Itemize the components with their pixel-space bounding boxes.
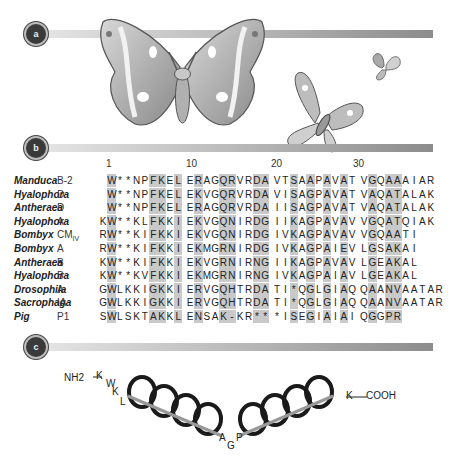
- species-name: Antheraea: [14, 256, 63, 269]
- position-tick: 10: [186, 158, 197, 169]
- panel-b-badge: b: [24, 136, 48, 160]
- isoform-label: A: [57, 283, 64, 296]
- c-residue: K: [346, 390, 353, 401]
- sequence: SWLSKTAKKL ENSAK-KR** *ISEGIAIAI QGGPR: [99, 310, 402, 323]
- isoform-label: B-2: [57, 174, 73, 187]
- n-terminus-label: NH2: [64, 372, 84, 383]
- panel-c-badge: c: [24, 335, 48, 359]
- sequence: W**NPFKEL ERAGQRVRDA IISAGPAVAT VAQATALA…: [99, 201, 435, 214]
- panel-a-badge: a: [24, 22, 48, 46]
- sequence: GWLKKIGKKI ERVGQHTRDA TI*QGLGIAQ QAANVAA…: [99, 296, 443, 309]
- n-residue-1: K: [96, 370, 103, 381]
- isoform-label: D: [57, 188, 64, 201]
- isoform-label: A: [57, 242, 64, 255]
- sequence: KW**KIFKKI EKVGRNIRNG IIKAGPAVAV LGEAKAL: [99, 256, 418, 269]
- small-moth-illustration: [280, 68, 370, 153]
- n-residue-4: L: [120, 396, 126, 407]
- position-tick: 1: [106, 158, 112, 169]
- isoform-label: D: [57, 201, 64, 214]
- isoform-label: IA: [57, 296, 66, 309]
- hinge-residue-p: P: [236, 432, 243, 443]
- species-name: Bombyx: [14, 242, 53, 255]
- species-name: Manduca: [14, 174, 57, 187]
- species-name: Bombyx: [14, 228, 53, 241]
- panel-b-band: [38, 144, 433, 152]
- species-name: Pig: [14, 310, 30, 323]
- isoform-label: B: [57, 256, 64, 269]
- hinge-residue-a: A: [219, 432, 226, 443]
- sequence: GWLKKIGKKI ERVGQHTRDA TI*QGLGIAQ QAANVAA…: [99, 283, 443, 296]
- isoform-label: B: [57, 269, 64, 282]
- sequence: W**NPFKEL ERAGQRVRDA VTSAAPAVAT VGQAAAIA…: [99, 174, 435, 187]
- species-name: Antheraea: [14, 201, 63, 214]
- sequence: RW**KIFKKI EKVGQNIRDG IVKAGPAVAV VGQAATI: [99, 228, 418, 241]
- sequence: RW**KIFKKI EKMGRNIRDG IVKAGPAIEV LGSAKAI: [99, 242, 418, 255]
- helix-hinge-helix-diagram: [0, 370, 451, 458]
- n-residue-3: K: [112, 386, 119, 397]
- panel-c-band: [38, 343, 433, 351]
- position-tick: 20: [271, 158, 282, 169]
- position-tick: 30: [353, 158, 364, 169]
- c-terminus-label: COOH: [366, 390, 396, 401]
- sequence: W**NPFKEL EKVGQRVRDA VISAGPAVAT VAQATALA…: [99, 188, 435, 201]
- sequence: KW**KLFKKI EKVGQNIRDG IIKAGPAVAV VGQATQI…: [99, 215, 435, 228]
- isoform-label: A: [57, 215, 64, 228]
- sequence: KW**KVFKKI EKMGRNIRNG IVKAGPAIAV LGEAKAL: [99, 269, 418, 282]
- hinge-residue-g: G: [227, 440, 235, 451]
- isoform-label: P1: [57, 310, 69, 323]
- tiny-butterfly-illustration: [368, 50, 404, 82]
- large-moth-illustration: [95, 12, 270, 132]
